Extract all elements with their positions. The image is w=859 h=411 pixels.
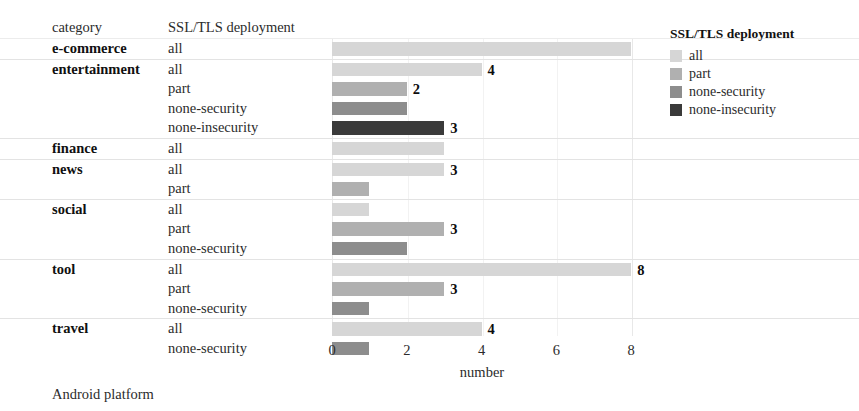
bar[interactable] bbox=[332, 63, 482, 77]
bar-track bbox=[332, 302, 859, 316]
chart-row: none-security bbox=[0, 239, 859, 259]
series-label: all bbox=[168, 260, 183, 280]
chart-figure: category SSL/TLS deployment e-commerceal… bbox=[0, 0, 859, 411]
legend-title: SSL/TLS deployment bbox=[670, 26, 850, 42]
bar-value-label: 3 bbox=[450, 119, 457, 139]
bar-track bbox=[332, 182, 859, 196]
bar[interactable] bbox=[332, 222, 444, 236]
legend-item[interactable]: part bbox=[670, 65, 850, 83]
bar[interactable] bbox=[332, 242, 407, 256]
legend-item[interactable]: all bbox=[670, 47, 850, 65]
series-label: part bbox=[168, 79, 191, 99]
chart-row: none-insecurity3 bbox=[0, 118, 859, 138]
legend-label: none-security bbox=[689, 84, 765, 100]
bar-value-label: 8 bbox=[637, 261, 644, 281]
bar-value-label: 3 bbox=[450, 280, 457, 300]
legend-swatch bbox=[670, 68, 682, 80]
legend: SSL/TLS deployment allpartnone-securityn… bbox=[670, 26, 850, 119]
chart-row: none-security bbox=[0, 299, 859, 319]
chart-row: newsall3 bbox=[0, 160, 859, 180]
chart-row: part bbox=[0, 179, 859, 199]
bar[interactable] bbox=[332, 263, 631, 277]
bar[interactable] bbox=[332, 282, 444, 296]
legend-item[interactable]: none-insecurity bbox=[670, 101, 850, 119]
bar-value-label: 3 bbox=[450, 220, 457, 240]
bar-value-label: 3 bbox=[450, 161, 457, 181]
legend-swatch bbox=[670, 50, 682, 62]
legend-label: none-insecurity bbox=[689, 102, 776, 118]
category-label: news bbox=[52, 160, 83, 180]
bar[interactable] bbox=[332, 42, 631, 56]
bar[interactable] bbox=[332, 82, 407, 96]
series-label: part bbox=[168, 179, 191, 199]
bar[interactable] bbox=[332, 322, 482, 336]
category-label: social bbox=[52, 200, 87, 220]
category-group: socialallpart3none-security bbox=[0, 199, 859, 259]
legend-label: part bbox=[689, 66, 711, 82]
bar[interactable] bbox=[332, 203, 369, 217]
bar[interactable] bbox=[332, 102, 407, 116]
bar-track bbox=[332, 142, 859, 156]
category-label: tool bbox=[52, 260, 75, 280]
series-label: none-security bbox=[168, 99, 247, 119]
bar[interactable] bbox=[332, 302, 369, 316]
x-axis-tick: 4 bbox=[478, 342, 485, 359]
category-label: finance bbox=[52, 139, 97, 159]
chart-row: part3 bbox=[0, 219, 859, 239]
series-label: all bbox=[168, 160, 183, 180]
bar-track: 3 bbox=[332, 163, 859, 177]
bar[interactable] bbox=[332, 182, 369, 196]
category-group: financeall bbox=[0, 138, 859, 159]
chart-row: socialall bbox=[0, 200, 859, 220]
bar[interactable] bbox=[332, 121, 444, 135]
x-axis-title: number bbox=[460, 364, 504, 381]
series-label: all bbox=[168, 200, 183, 220]
legend-swatch bbox=[670, 104, 682, 116]
x-axis-tick: 8 bbox=[628, 342, 635, 359]
bar-value-label: 4 bbox=[488, 61, 495, 81]
series-label: none-security bbox=[168, 299, 247, 319]
series-label: all bbox=[168, 139, 183, 159]
bar[interactable] bbox=[332, 142, 444, 156]
bar-track: 8 bbox=[332, 263, 859, 277]
bar[interactable] bbox=[332, 163, 444, 177]
bar-track: 3 bbox=[332, 222, 859, 236]
series-label: none-insecurity bbox=[168, 118, 258, 138]
chart-row: part3 bbox=[0, 279, 859, 299]
legend-label: all bbox=[689, 48, 703, 64]
legend-items: allpartnone-securitynone-insecurity bbox=[670, 47, 850, 119]
series-label: part bbox=[168, 219, 191, 239]
chart-row: toolall8 bbox=[0, 260, 859, 280]
legend-swatch bbox=[670, 86, 682, 98]
bar-track: 4 bbox=[332, 322, 859, 336]
bar-track: 3 bbox=[332, 121, 859, 135]
category-group: newsall3part bbox=[0, 159, 859, 199]
column-header-series: SSL/TLS deployment bbox=[168, 19, 295, 36]
legend-item[interactable]: none-security bbox=[670, 83, 850, 101]
bar-track bbox=[332, 242, 859, 256]
category-label: entertainment bbox=[52, 60, 140, 80]
bar-track: 3 bbox=[332, 282, 859, 296]
series-label: part bbox=[168, 279, 191, 299]
series-label: all bbox=[168, 60, 183, 80]
bar-track bbox=[332, 203, 859, 217]
x-axis-tick: 6 bbox=[553, 342, 560, 359]
bar-value-label: 2 bbox=[413, 80, 420, 100]
chart-row: financeall bbox=[0, 139, 859, 159]
category-group: toolall8part3none-security bbox=[0, 259, 859, 319]
column-header-category: category bbox=[52, 19, 102, 36]
figure-caption: Android platform bbox=[52, 386, 154, 403]
series-label: all bbox=[168, 39, 183, 59]
x-axis-tick: 0 bbox=[328, 342, 335, 359]
x-axis-tick: 2 bbox=[403, 342, 410, 359]
series-label: none-security bbox=[168, 239, 247, 259]
x-axis: number 02468 bbox=[0, 336, 859, 376]
category-label: e-commerce bbox=[52, 39, 127, 59]
